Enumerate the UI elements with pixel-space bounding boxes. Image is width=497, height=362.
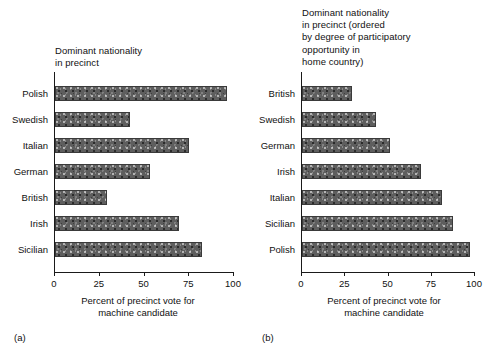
- category-label-polish: Polish: [22, 88, 48, 99]
- x-tick-label-0: 0: [51, 278, 56, 289]
- x-tick-label-0: 0: [298, 278, 303, 289]
- bar-swedish: [302, 112, 376, 127]
- category-label-british: British: [22, 192, 48, 203]
- panel-caption-b: (b): [262, 332, 274, 343]
- x-tick-label-50: 50: [138, 278, 149, 289]
- plot-area-b: BritishSwedishGermanIrishItalianSicilian…: [301, 72, 477, 272]
- x-tick-100: [233, 272, 234, 276]
- bar-polish: [55, 86, 227, 101]
- x-tick-label-100: 100: [225, 278, 241, 289]
- x-tick-50: [144, 272, 145, 276]
- bar-swedish: [55, 112, 130, 127]
- x-tick-label-75: 75: [425, 278, 436, 289]
- x-tick-0: [54, 272, 55, 276]
- bar-british: [302, 86, 352, 101]
- category-label-italian: Italian: [270, 192, 295, 203]
- figure-two-panel-bar-charts: Dominant nationality in precinct PolishS…: [0, 0, 497, 362]
- x-tick-label-75: 75: [183, 278, 194, 289]
- x-tick-75: [188, 272, 189, 276]
- category-label-polish: Polish: [269, 244, 295, 255]
- category-label-german: German: [14, 166, 48, 177]
- x-tick-25: [99, 272, 100, 276]
- category-label-german: German: [261, 140, 295, 151]
- panel-a: Dominant nationality in precinct PolishS…: [0, 0, 250, 362]
- bar-italian: [55, 138, 189, 153]
- category-label-swedish: Swedish: [12, 114, 48, 125]
- bar-sicilian: [55, 242, 202, 257]
- bar-polish: [302, 242, 470, 257]
- category-label-irish: Irish: [30, 218, 48, 229]
- panel-b: Dominant nationality in precinct (ordere…: [250, 0, 497, 362]
- panel-caption-a: (a): [14, 332, 26, 343]
- plot-area-a: PolishSwedishItalianGermanBritishIrishSi…: [54, 72, 236, 272]
- x-tick-label-25: 25: [339, 278, 350, 289]
- x-tick-50: [388, 272, 389, 276]
- category-label-sicilian: Sicilian: [18, 244, 48, 255]
- category-label-irish: Irish: [277, 166, 295, 177]
- bar-italian: [302, 190, 442, 205]
- chart-title-a: Dominant nationality in precinct: [55, 45, 235, 69]
- bar-german: [55, 164, 150, 179]
- bar-british: [55, 190, 107, 205]
- category-label-italian: Italian: [23, 140, 48, 151]
- x-tick-100: [474, 272, 475, 276]
- x-tick-75: [431, 272, 432, 276]
- category-label-swedish: Swedish: [259, 114, 295, 125]
- x-tick-label-50: 50: [382, 278, 393, 289]
- chart-title-b: Dominant nationality in precinct (ordere…: [302, 7, 482, 68]
- x-tick-label-100: 100: [466, 278, 482, 289]
- x-axis-title-a: Percent of precinct vote for machine can…: [38, 295, 238, 319]
- category-label-british: British: [269, 88, 295, 99]
- x-tick-label-25: 25: [93, 278, 104, 289]
- bar-sicilian: [302, 216, 453, 231]
- x-tick-25: [344, 272, 345, 276]
- bar-german: [302, 138, 390, 153]
- x-tick-0: [301, 272, 302, 276]
- x-axis-title-b: Percent of precinct vote for machine can…: [284, 295, 484, 319]
- category-label-sicilian: Sicilian: [265, 218, 295, 229]
- bar-irish: [302, 164, 421, 179]
- bar-irish: [55, 216, 179, 231]
